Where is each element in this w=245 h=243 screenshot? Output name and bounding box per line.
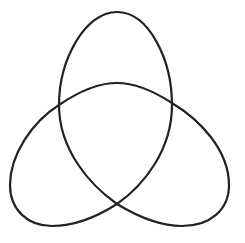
trefoil-diagram: [0, 0, 245, 243]
diagram-canvas: [0, 0, 245, 243]
trefoil-curve: [10, 12, 229, 226]
